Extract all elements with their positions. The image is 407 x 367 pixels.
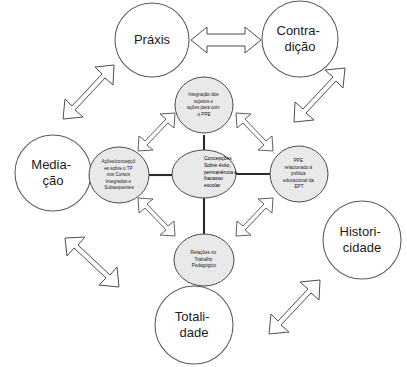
outer-node-mediacao: Media- ção bbox=[15, 135, 91, 211]
inner-node-center: Concepções Sobre êxito, permanência e fr… bbox=[172, 150, 238, 198]
arrow-inner-bottom-left-icon bbox=[138, 198, 175, 236]
inner-node-bottom-label: Relações no Trabalho Pedagógico bbox=[191, 250, 218, 268]
inner-node-top: Integração dos sujeitos e ações para com… bbox=[175, 77, 233, 133]
arrow-inner-bottom-right-icon bbox=[236, 198, 273, 236]
arrow-lower-left-icon bbox=[65, 237, 119, 287]
arrow-top-horizontal-icon bbox=[191, 27, 261, 53]
inner-node-bottom: Relações no Trabalho Pedagógico bbox=[174, 234, 234, 286]
diagram-canvas: Práxis Contra- dição Media- ção Histori-… bbox=[0, 0, 407, 367]
outer-node-historicidade-label: Histori- cidade bbox=[340, 224, 385, 255]
outer-node-praxis: Práxis bbox=[115, 3, 189, 77]
outer-node-historicidade: Histori- cidade bbox=[323, 201, 401, 279]
inner-node-right: PPE relacionado à política educacional d… bbox=[270, 146, 328, 202]
arrow-inner-top-left-icon bbox=[138, 113, 175, 151]
arrow-lower-right-icon bbox=[269, 280, 320, 334]
concept-map-diagram: Práxis Contra- dição Media- ção Histori-… bbox=[0, 0, 407, 367]
outer-node-totalidade: Totali- dade bbox=[155, 286, 233, 364]
inner-node-left: Ações/concepçõ es sobre o TP nos Cursos … bbox=[89, 147, 149, 203]
outer-node-totalidade-label: Totali- dade bbox=[175, 309, 213, 340]
outer-node-praxis-label: Práxis bbox=[134, 32, 171, 47]
arrow-inner-top-right-icon bbox=[236, 113, 273, 151]
inner-node-left-label: Ações/concepçõ es sobre o TP nos Cursos … bbox=[102, 159, 137, 190]
outer-node-contradicao: Contra- dição bbox=[262, 1, 338, 77]
arrow-upper-left-icon bbox=[63, 65, 114, 119]
